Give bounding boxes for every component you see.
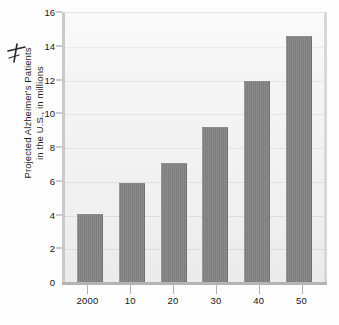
x-axis-tick-label: 2000 (66, 295, 109, 315)
bar-slot (111, 13, 153, 282)
x-axis-tick-labels: 20001020304050 (62, 295, 327, 315)
x-axis-tick-label: 30 (194, 295, 237, 315)
bar-slot (278, 13, 320, 282)
y-axis-tick-mark (56, 45, 62, 46)
y-axis-tick-label: 12 (28, 74, 55, 85)
bar (244, 81, 270, 282)
bar (202, 127, 228, 282)
x-axis-tick-marks (62, 285, 327, 294)
x-axis-tick-label: 40 (237, 295, 280, 315)
x-axis-tick-label: 10 (109, 295, 152, 315)
y-axis-tick-label: 6 (28, 175, 55, 186)
x-axis-tick-mark (216, 285, 217, 294)
x-axis-tick-mark (173, 285, 174, 294)
bar (119, 183, 145, 282)
y-axis-tick-label: 10 (28, 108, 55, 119)
x-axis-tick-label: 50 (280, 295, 323, 315)
x-axis-tick-label: 20 (152, 295, 195, 315)
x-axis-tick-mark (87, 285, 88, 294)
y-axis-tick-labels: 0246810121416 (28, 12, 55, 282)
bar-slot (194, 13, 236, 282)
bar (77, 214, 103, 283)
y-axis-tick-label: 14 (28, 40, 55, 51)
y-axis-tick-label: 0 (28, 277, 55, 288)
y-axis-tick-label: 4 (28, 209, 55, 220)
bars-container (65, 13, 324, 282)
bar-chart-figure: Projected Alzheimer's Patients in the U.… (0, 0, 339, 325)
x-axis-tick-mark (302, 285, 303, 294)
y-axis-tick-mark (56, 79, 62, 80)
bar (161, 163, 187, 282)
bar (286, 36, 312, 282)
y-axis-tick-mark (56, 214, 62, 215)
bar-slot (236, 13, 278, 282)
plot-area (62, 12, 327, 282)
x-axis-tick-mark (259, 285, 260, 294)
y-axis-tick-mark (56, 180, 62, 181)
bar-slot (153, 13, 195, 282)
y-axis-tick-label: 8 (28, 142, 55, 153)
y-axis-tick-mark (56, 12, 62, 13)
y-axis-tick-mark (56, 147, 62, 148)
x-axis-tick-mark (130, 285, 131, 294)
y-axis-tick-mark (56, 113, 62, 114)
y-axis-tick-mark (56, 248, 62, 249)
y-axis-tick-label: 2 (28, 243, 55, 254)
y-axis-tick-label: 16 (28, 7, 55, 18)
bar-slot (69, 13, 111, 282)
